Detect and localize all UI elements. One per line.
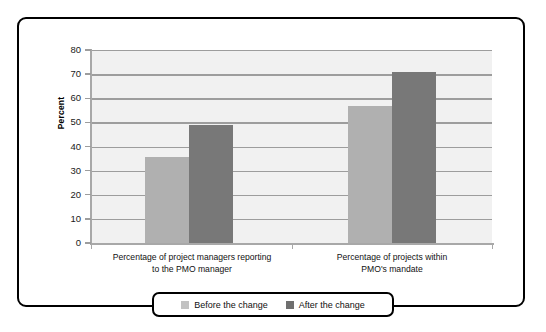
y-tick-label-50: 50	[55, 117, 81, 127]
category-label-group-1-line-2: to the PMO manager	[92, 263, 292, 275]
y-tick-label-70: 70	[55, 69, 81, 79]
x-tick-mark	[492, 244, 493, 249]
y-tick-label-80: 80	[55, 45, 81, 55]
y-tick-label-20: 20	[55, 190, 81, 200]
y-tick-label-0: 0	[55, 238, 81, 248]
category-label-group-1-line-1: Percentage of project managers reporting	[92, 251, 292, 263]
bar-after-group-2	[392, 72, 436, 243]
legend-label-after: After the change	[299, 300, 365, 310]
bar-before-group-2	[348, 106, 392, 244]
legend-swatch-icon-after	[286, 301, 294, 309]
y-tick-label-10: 10	[55, 214, 81, 224]
category-label-group-1: Percentage of project managers reporting…	[92, 251, 292, 275]
chart-legend: Before the change After the change	[152, 292, 394, 317]
y-tick-label-40: 40	[55, 142, 81, 152]
legend-label-before: Before the change	[194, 300, 268, 310]
x-tick-mark	[91, 244, 92, 249]
gridline	[92, 50, 492, 51]
legend-swatch-icon-before	[181, 301, 189, 309]
y-tick-mark	[85, 49, 91, 50]
y-tick-mark	[85, 218, 91, 219]
y-tick-mark	[85, 98, 91, 99]
y-tick-label-30: 30	[55, 166, 81, 176]
legend-item-after[interactable]: After the change	[286, 300, 365, 310]
x-tick-mark	[292, 244, 293, 249]
legend-item-before[interactable]: Before the change	[181, 300, 268, 310]
category-label-group-2-line-2: PMO's mandate	[292, 263, 492, 275]
y-tick-label-60: 60	[55, 93, 81, 103]
plot-area	[92, 50, 492, 243]
y-tick-mark	[85, 122, 91, 123]
y-tick-mark	[85, 170, 91, 171]
y-tick-mark	[85, 194, 91, 195]
y-tick-mark	[85, 146, 91, 147]
y-tick-mark	[85, 73, 91, 74]
category-label-group-2-line-1: Percentage of projects within	[292, 251, 492, 263]
category-label-group-2: Percentage of projects within PMO's mand…	[292, 251, 492, 275]
bar-before-group-1	[145, 157, 189, 243]
bar-after-group-1	[189, 125, 233, 243]
y-axis-title: Percent	[56, 81, 66, 145]
